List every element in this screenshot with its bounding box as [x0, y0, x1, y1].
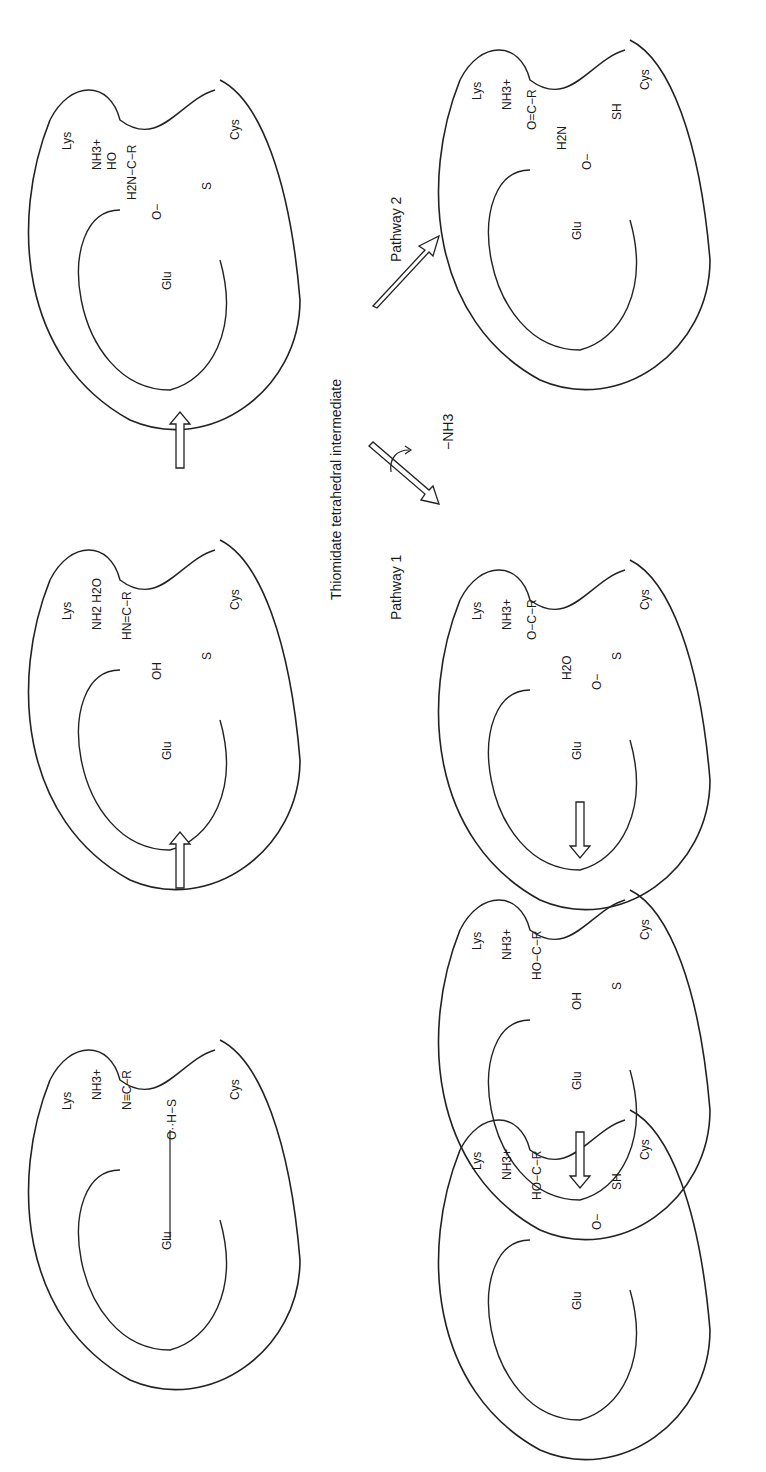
- p5-group-2: HO−C−R: [530, 931, 544, 980]
- lys-label: Lys: [470, 602, 484, 620]
- lys-label: Lys: [60, 1092, 74, 1110]
- pathway1-label: Pathway 1: [388, 555, 404, 620]
- p2-group-1: NH2 H2O: [90, 578, 104, 630]
- glu-label: Glu: [160, 271, 174, 290]
- lys-label: Lys: [470, 82, 484, 100]
- cys-label: Cys: [638, 1139, 652, 1160]
- p1-group-2: N≡C−R: [120, 1070, 134, 1110]
- glu-label: Glu: [160, 1231, 174, 1250]
- reaction-arrow-up-2: [168, 410, 192, 470]
- p5-group-4: S: [610, 982, 624, 990]
- panel-pathway2-product: [420, 20, 720, 400]
- lys-label: Lys: [470, 1152, 484, 1170]
- ammonia-leaving-label: −NH3: [440, 414, 456, 450]
- glu-label: Glu: [160, 741, 174, 760]
- p4-group-1: NH3+: [500, 599, 514, 630]
- glu-label: Glu: [570, 1071, 584, 1090]
- cys-label: Cys: [228, 589, 242, 610]
- cys-label: Cys: [228, 119, 242, 140]
- cys-label: Cys: [638, 589, 652, 610]
- p3-group-4: O−: [150, 204, 164, 220]
- lys-label: Lys: [60, 132, 74, 150]
- p6-group-1: NH3+: [500, 1149, 514, 1180]
- pathway1-arrow: [365, 440, 445, 510]
- panel-imidate: [10, 520, 310, 900]
- p4-group-2: O−C−R: [525, 599, 539, 640]
- panel-pathway1-step1: [420, 540, 720, 920]
- p2-group-3: OH: [150, 662, 164, 680]
- p4-group-4: O−: [590, 674, 604, 690]
- lys-label: Lys: [60, 602, 74, 620]
- p6-group-3: O−: [590, 1214, 604, 1230]
- lys-label: Lys: [470, 932, 484, 950]
- reaction-arrow-up-1: [168, 830, 192, 890]
- p4-group-3: H2O: [560, 655, 574, 680]
- glu-label: Glu: [570, 741, 584, 760]
- pathway2-label: Pathway 2: [388, 197, 404, 262]
- enzyme-outline: [420, 540, 720, 920]
- reaction-arrow-down-2: [568, 1130, 592, 1190]
- enzyme-outline: [10, 520, 310, 900]
- p3-group-1: NH3+: [90, 139, 104, 170]
- p4-group-5: S: [610, 652, 624, 660]
- glu-label: Glu: [570, 221, 584, 240]
- p5-group-1: NH3+: [500, 929, 514, 960]
- panel-substrate-binding: [10, 1020, 310, 1400]
- panel-tetrahedral-intermediate: [10, 60, 310, 440]
- p7-group-2: O=C−R: [525, 89, 539, 130]
- p6-group-4: SH: [610, 1173, 624, 1190]
- p5-group-3: OH: [570, 992, 584, 1010]
- enzyme-outline: [10, 60, 310, 440]
- p2-group-2: HN=C−R: [120, 591, 134, 640]
- reaction-arrow-down-1: [568, 800, 592, 860]
- intermediate-title: Thiomidate tetrahedral intermediate: [328, 379, 344, 600]
- p1-group-1: NH3+: [90, 1069, 104, 1100]
- enzyme-outline: [420, 20, 720, 400]
- cys-label: Cys: [638, 69, 652, 90]
- pathway2-arrow: [365, 230, 445, 310]
- p7-group-4: O−: [580, 154, 594, 170]
- glu-label: Glu: [570, 1291, 584, 1310]
- p7-group-3: H2N: [555, 126, 569, 150]
- cys-label: Cys: [638, 919, 652, 940]
- cys-label: Cys: [228, 1079, 242, 1100]
- p7-group-5: SH: [610, 103, 624, 120]
- p2-group-4: S: [200, 652, 214, 660]
- p1-group-3: O··H−S: [165, 1099, 179, 1140]
- p7-group-1: NH3+: [500, 79, 514, 110]
- enzyme-outline: [10, 1020, 310, 1400]
- p3-group-2: HO: [105, 152, 119, 170]
- p6-group-2: HO−C−R: [530, 1151, 544, 1200]
- p3-group-5: S: [200, 182, 214, 190]
- p3-group-3: H2N−C−R: [125, 145, 139, 200]
